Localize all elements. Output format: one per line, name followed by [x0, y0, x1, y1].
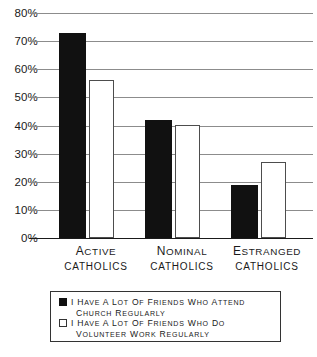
y-tick-50 — [29, 97, 40, 98]
chart-legend: I HAVE A LOT OF FRIENDS WHO ATTEND CHURC… — [50, 291, 281, 342]
x-label-line1: ACTIVE — [46, 244, 146, 259]
plot-area — [40, 13, 313, 238]
legend-swatch-light-icon — [59, 319, 67, 327]
legend-label-line1: I HAVE A LOT OF FRIENDS WHO DO — [71, 318, 225, 329]
bar-active-attend-church[interactable] — [59, 33, 86, 238]
y-tick-20 — [29, 182, 40, 183]
bar-nominal-attend-church[interactable] — [145, 120, 172, 238]
y-tick-80 — [29, 13, 40, 14]
legend-label: I HAVE A LOT OF FRIENDS WHO DO VOLUNTEER… — [71, 318, 225, 340]
legend-label: I HAVE A LOT OF FRIENDS WHO ATTEND CHURC… — [71, 297, 245, 319]
bar-estranged-attend-church[interactable] — [231, 185, 258, 238]
legend-swatch-dark-icon — [59, 298, 67, 306]
legend-entry-volunteer[interactable]: I HAVE A LOT OF FRIENDS WHO DO VOLUNTEER… — [59, 318, 274, 340]
bar-estranged-volunteer[interactable] — [261, 162, 286, 238]
legend-label-line2: VOLUNTEER WORK REGULARLY — [71, 329, 225, 340]
y-tick-60 — [29, 69, 40, 70]
legend-label-line1: I HAVE A LOT OF FRIENDS WHO ATTEND — [71, 297, 245, 308]
y-tick-10 — [29, 210, 40, 211]
bar-nominal-volunteer[interactable] — [175, 125, 200, 238]
y-tick-70 — [29, 41, 40, 42]
x-label-line2: CATHOLICS — [217, 259, 317, 274]
x-axis-label-active: ACTIVE CATHOLICS — [46, 244, 146, 274]
y-tick-0 — [29, 238, 40, 239]
bar-chart: 80% 70% 60% 50% 40% 30% 20% 10% 0% — [0, 0, 317, 357]
legend-entry-attend-church[interactable]: I HAVE A LOT OF FRIENDS WHO ATTEND CHURC… — [59, 297, 274, 319]
y-tick-40 — [29, 126, 40, 127]
y-tick-30 — [29, 154, 40, 155]
bar-active-volunteer[interactable] — [89, 80, 114, 238]
x-axis-label-estranged: ESTRANGED CATHOLICS — [217, 244, 317, 274]
x-axis-baseline — [40, 238, 313, 239]
x-label-line1: ESTRANGED — [217, 244, 317, 259]
x-label-line2: CATHOLICS — [46, 259, 146, 274]
gridline-80 — [40, 13, 313, 14]
